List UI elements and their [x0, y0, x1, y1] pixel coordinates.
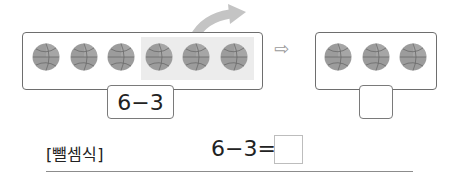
basketball-icon	[107, 43, 135, 71]
equation-answer-box[interactable]	[274, 135, 303, 164]
basketball-icon	[399, 43, 427, 71]
left-expression: 6−3	[117, 90, 163, 115]
basketball-icon	[70, 43, 98, 71]
basketball-icon	[182, 43, 210, 71]
right-answer-box[interactable]	[359, 85, 393, 119]
basketball-icon	[145, 43, 173, 71]
divider-line	[46, 171, 413, 172]
basketball-icon	[220, 43, 248, 71]
basketball-icon	[32, 43, 60, 71]
left-expression-box: 6−3	[107, 85, 174, 119]
equation-expression: 6−3=	[211, 136, 276, 161]
basketball-icon	[324, 43, 352, 71]
subtraction-label: [뺄셈식]	[46, 141, 103, 165]
right-arrow-icon: ⇨	[274, 38, 289, 59]
basketball-icon	[362, 43, 390, 71]
